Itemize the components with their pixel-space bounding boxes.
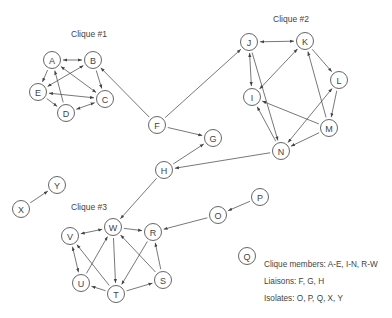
node-label: S: [160, 276, 166, 286]
node-c: C: [97, 91, 114, 108]
node-label: I: [251, 93, 254, 103]
node-k: K: [297, 33, 314, 50]
node-t: T: [108, 286, 125, 303]
edge-o-r: [164, 218, 208, 229]
edge-x-y: [30, 191, 48, 203]
clique-2-label: Clique #2: [273, 14, 309, 24]
edge-m-i: [262, 101, 319, 124]
edge-f-j: [165, 49, 241, 117]
edge-w-t: [113, 238, 115, 283]
legend-liaisons: Liaisons: F, G, H: [264, 277, 324, 286]
edge-d-a: [55, 71, 63, 103]
node-label: G: [209, 134, 216, 144]
node-label: X: [18, 205, 24, 215]
edge-s-r: [155, 243, 161, 269]
edge-k-i: [260, 49, 298, 89]
node-e: E: [30, 84, 47, 101]
edge-a-c: [61, 67, 96, 93]
node-s: S: [155, 272, 172, 289]
node-i: I: [244, 89, 261, 106]
node-label: P: [257, 193, 263, 203]
node-label: U: [78, 279, 85, 289]
node-label: M: [325, 124, 333, 134]
node-label: T: [113, 290, 119, 300]
node-r: R: [145, 224, 162, 241]
edge-j-i: [250, 53, 252, 86]
node-u: U: [73, 275, 90, 292]
edge-r-t: [122, 241, 148, 284]
edge-p-o: [228, 201, 250, 210]
node-a: A: [44, 52, 61, 69]
node-label: B: [90, 56, 96, 66]
edge-h-g: [173, 144, 204, 164]
node-h: H: [156, 162, 173, 179]
node-label: K: [302, 37, 308, 47]
legend-isolates: Isolates: O, P, Q, X, Y: [264, 294, 343, 303]
node-v: V: [62, 228, 79, 245]
node-label: C: [102, 95, 109, 105]
edge-u-w: [86, 237, 107, 274]
node-y: Y: [49, 177, 66, 194]
edge-a-e: [42, 70, 47, 82]
node-label: Y: [54, 181, 60, 191]
node-b: B: [85, 52, 102, 69]
edge-d-c: [76, 103, 94, 110]
node-f: F: [149, 117, 166, 134]
edge-m-n: [291, 133, 319, 146]
edge-w-r: [124, 228, 142, 230]
edge-b-c: [96, 71, 102, 89]
node-label: N: [278, 147, 285, 157]
node-j: J: [241, 34, 258, 51]
legend: Clique members: A-E, I-N, R-W Liaisons: …: [264, 260, 378, 303]
edge-t-u: [91, 286, 105, 290]
node-label: V: [67, 232, 73, 242]
clique-1-label: Clique #1: [71, 29, 107, 39]
edges-layer: [30, 41, 337, 291]
node-label: H: [161, 166, 168, 176]
node-label: A: [49, 56, 55, 66]
edge-j-k: [260, 41, 294, 42]
node-d: D: [58, 105, 75, 122]
node-label: O: [214, 211, 221, 221]
node-m: M: [321, 120, 338, 137]
network-diagram: ABCDEFGHIJKLMNOPQRSTUVWXY Clique #1 Cliq…: [0, 0, 392, 318]
node-label: D: [63, 109, 70, 119]
node-w: W: [105, 219, 122, 236]
clique-3-label: Clique #3: [71, 202, 107, 212]
edge-f-g: [168, 127, 203, 135]
edge-l-m: [331, 91, 337, 117]
node-o: O: [210, 207, 227, 224]
node-x: X: [13, 201, 30, 218]
node-n: N: [273, 143, 290, 160]
edge-e-c: [49, 93, 94, 98]
edge-t-s: [127, 283, 153, 291]
edge-e-d: [47, 99, 57, 107]
node-label: W: [109, 223, 118, 233]
edge-v-u: [73, 247, 79, 273]
edge-k-l: [312, 49, 332, 71]
node-g: G: [205, 130, 222, 147]
node-p: P: [252, 189, 269, 206]
node-label: F: [154, 121, 160, 131]
node-label: E: [35, 88, 41, 98]
node-label: R: [150, 228, 157, 238]
node-label: Q: [243, 252, 250, 262]
edge-s-w: [121, 235, 156, 272]
node-l: L: [331, 72, 348, 89]
node-label: L: [336, 76, 341, 86]
legend-clique-members: Clique members: A-E, I-N, R-W: [264, 260, 378, 269]
edge-h-w: [120, 178, 156, 219]
node-label: J: [247, 38, 252, 48]
node-q: Q: [239, 248, 256, 265]
edge-v-w: [81, 229, 102, 233]
edge-n-h: [175, 153, 270, 168]
